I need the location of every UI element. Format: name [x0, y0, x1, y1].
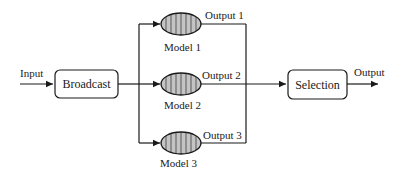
- model-3-ellipse: [161, 132, 201, 154]
- model-1-ellipse: [161, 13, 201, 35]
- broadcast-node: Broadcast: [55, 70, 118, 98]
- output-node: Output: [347, 66, 385, 84]
- model-3-node: Model 3 Output 3: [160, 129, 242, 169]
- selection-connectors: [201, 24, 286, 143]
- selection-node: Selection: [288, 70, 347, 99]
- model-1-node: Model 1 Output 1: [161, 9, 244, 53]
- output-2-label: Output 2: [202, 69, 241, 81]
- output-label: Output: [354, 66, 385, 78]
- model-2-node: Model 2 Output 2: [161, 69, 241, 111]
- model-2-ellipse: [161, 73, 201, 95]
- output-1-label: Output 1: [205, 9, 244, 21]
- selection-label: Selection: [295, 78, 340, 92]
- model-1-label: Model 1: [164, 41, 201, 53]
- model-2-label: Model 2: [164, 99, 201, 111]
- output-3-label: Output 3: [203, 129, 242, 141]
- broadcast-label: Broadcast: [63, 77, 112, 91]
- ensemble-diagram: Input Broadcast Model 1 Output 1 Model 2…: [0, 0, 405, 178]
- input-label: Input: [20, 67, 43, 79]
- model-3-label: Model 3: [160, 157, 197, 169]
- broadcast-connectors: [118, 24, 160, 143]
- input-node: Input: [20, 67, 53, 84]
